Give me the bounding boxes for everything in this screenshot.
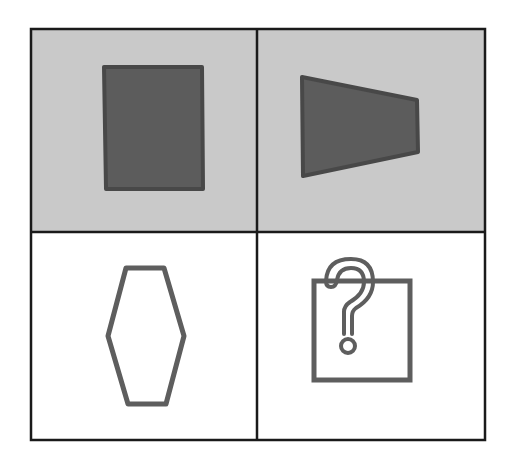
cell-bottom-left-background <box>31 232 257 440</box>
puzzle-stage: ? <box>0 0 511 462</box>
question-mark-dot <box>341 339 355 353</box>
question-box-frame <box>314 281 410 380</box>
filled-rectangle-shape <box>104 67 203 189</box>
puzzle-grid: ? <box>0 0 511 462</box>
